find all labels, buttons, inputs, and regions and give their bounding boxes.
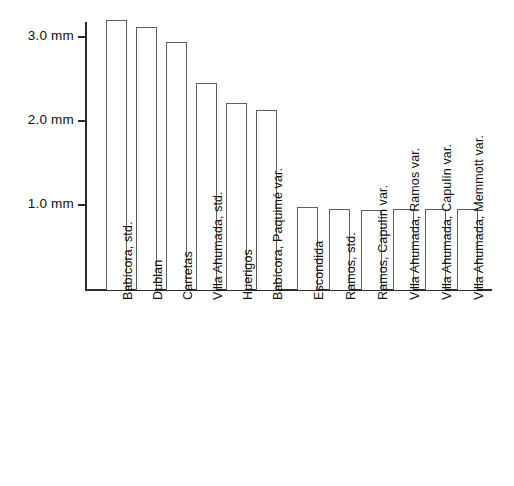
category-label: Dublan (152, 260, 165, 300)
category-label: Babícora, Paquimé var. (272, 168, 285, 300)
chart-page: 1.0 mm2.0 mm3.0 mm Babícora, std.DublanC… (0, 0, 514, 486)
category-label: Carretas (182, 251, 195, 300)
category-label: Huerigos (242, 249, 255, 300)
category-label: Babícora, std. (122, 221, 135, 300)
category-label: Villa Ahumada, Capulín var. (441, 144, 454, 300)
category-label: Villa Ahumada, Memmott var. (473, 135, 486, 300)
bar-chart: 1.0 mm2.0 mm3.0 mm Babícora, std.DublanC… (0, 0, 514, 486)
category-label: Villa Ahumada, std. (212, 191, 225, 300)
category-label: Escondida (313, 241, 326, 300)
category-label: Ramos, std. (345, 232, 358, 300)
x-axis-category-labels: Babícora, std.DublanCarretasVilla Ahumad… (0, 0, 514, 486)
category-label: Ramos, Capulín var. (377, 185, 390, 300)
category-label: Villa Ahumada, Ramos var. (409, 148, 422, 300)
